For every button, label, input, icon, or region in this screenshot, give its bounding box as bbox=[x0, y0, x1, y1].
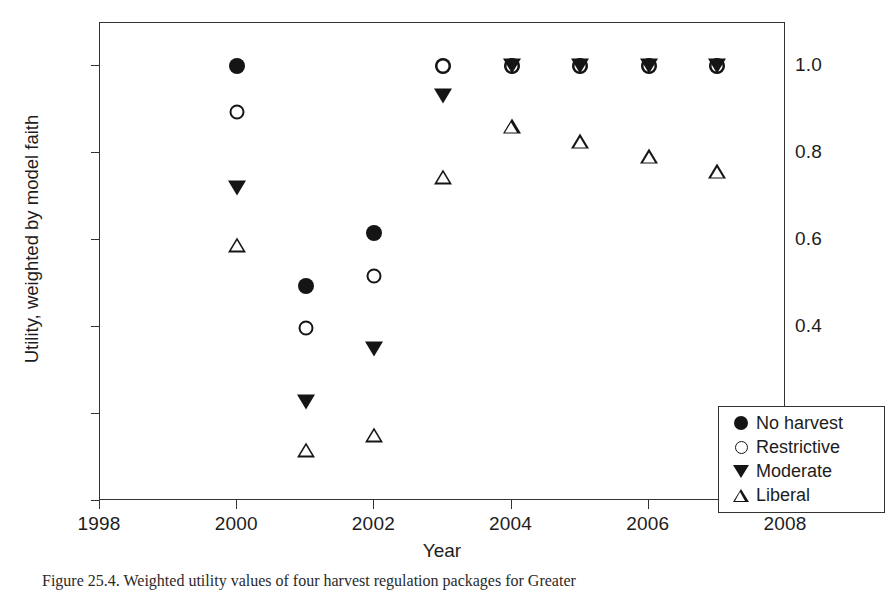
x-tick-label: 2006 bbox=[603, 513, 693, 535]
legend-item-label: Liberal bbox=[756, 485, 810, 506]
data-point bbox=[228, 180, 246, 195]
data-point bbox=[641, 58, 657, 74]
legend-item-moderate[interactable]: Moderate bbox=[719, 459, 884, 483]
legend-item-restrictive[interactable]: Restrictive bbox=[719, 435, 884, 459]
data-point bbox=[640, 149, 658, 164]
data-point bbox=[641, 59, 656, 74]
x-tick-label: 2002 bbox=[328, 513, 418, 535]
open-triangle-up-icon bbox=[730, 489, 752, 502]
data-point bbox=[366, 225, 382, 241]
filled-triangle-down-icon bbox=[730, 465, 752, 478]
x-tick-label: 2008 bbox=[740, 513, 830, 535]
data-point bbox=[228, 237, 246, 252]
data-point bbox=[708, 59, 726, 74]
data-point bbox=[436, 59, 451, 74]
filled-circle-icon bbox=[730, 416, 752, 430]
y-axis-title: Utility, weighted by model faith bbox=[21, 39, 43, 439]
data-point bbox=[572, 58, 588, 74]
x-tick-mark bbox=[511, 500, 512, 509]
data-point bbox=[297, 395, 315, 410]
data-markers-layer bbox=[100, 23, 784, 143]
legend: No harvestRestrictiveModerateLiberal bbox=[718, 406, 885, 513]
data-point bbox=[709, 58, 725, 74]
legend-item-label: No harvest bbox=[756, 413, 843, 434]
x-tick-label: 2000 bbox=[191, 513, 281, 535]
legend-item-no-harvest[interactable]: No harvest bbox=[719, 411, 884, 435]
data-point bbox=[298, 321, 313, 336]
data-point bbox=[708, 164, 726, 179]
data-point bbox=[573, 59, 588, 74]
figure-caption: Figure 25.4. Weighted utility values of … bbox=[42, 572, 782, 590]
data-point bbox=[367, 268, 382, 283]
data-point bbox=[503, 59, 521, 74]
data-point bbox=[297, 442, 315, 457]
data-point bbox=[434, 89, 452, 104]
data-point bbox=[571, 134, 589, 149]
data-point bbox=[365, 427, 383, 442]
plot-area: No harvestRestrictiveModerateLiberal bbox=[99, 22, 785, 500]
x-tick-mark bbox=[236, 500, 237, 509]
data-point bbox=[298, 278, 314, 294]
data-point bbox=[434, 169, 452, 184]
legend-item-label: Restrictive bbox=[756, 437, 840, 458]
x-tick-label: 2004 bbox=[466, 513, 556, 535]
data-point bbox=[230, 104, 245, 119]
data-point bbox=[365, 342, 383, 357]
data-point bbox=[504, 58, 520, 74]
data-point bbox=[571, 59, 589, 74]
open-circle-icon bbox=[730, 441, 752, 454]
x-tick-label: 1998 bbox=[54, 513, 144, 535]
x-tick-mark bbox=[99, 500, 100, 509]
x-tick-mark bbox=[648, 500, 649, 509]
legend-item-label: Moderate bbox=[756, 461, 832, 482]
data-point bbox=[503, 119, 521, 134]
data-point bbox=[435, 58, 451, 74]
data-point bbox=[504, 59, 519, 74]
legend-item-liberal[interactable]: Liberal bbox=[719, 483, 884, 507]
data-point bbox=[710, 59, 725, 74]
x-axis-title: Year bbox=[99, 540, 785, 562]
data-point bbox=[229, 58, 245, 74]
x-tick-mark bbox=[373, 500, 374, 509]
data-point bbox=[640, 59, 658, 74]
